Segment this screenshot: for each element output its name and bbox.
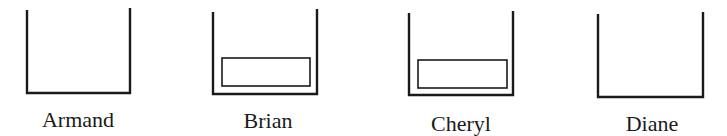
container-label: Brian [244,108,293,133]
containers-diagram: ArmandBrianCherylDiane [0,0,727,136]
container-diane: Diane [598,12,703,136]
container-label: Armand [42,107,114,132]
container-outline [409,11,513,95]
container-brian: Brian [213,9,317,133]
block [222,58,310,86]
container-cheryl: Cheryl [409,11,513,136]
container-label: Cheryl [431,111,491,136]
block [418,60,507,88]
container-outline [27,8,130,93]
container-label: Diane [626,111,679,136]
container-armand: Armand [27,8,130,132]
container-outline [213,9,317,94]
container-outline [598,12,703,97]
